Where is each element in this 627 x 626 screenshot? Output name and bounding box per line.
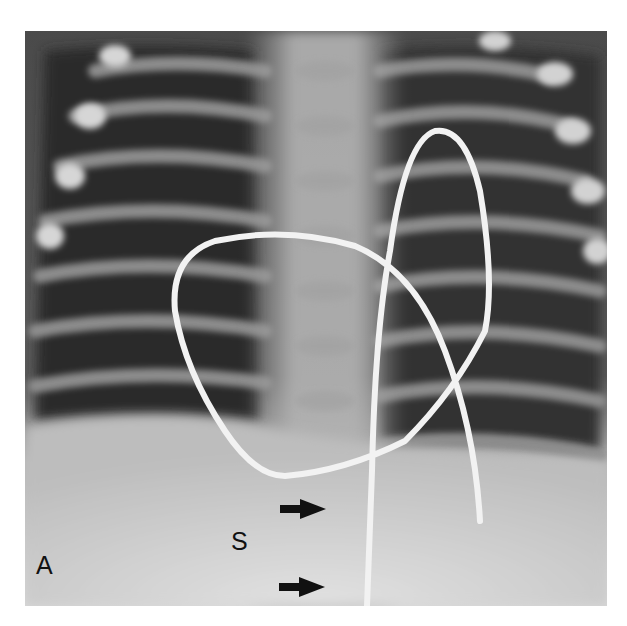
xray-figure: A S (25, 31, 607, 606)
chest-radiograph (25, 31, 607, 606)
s-label: S (231, 529, 248, 554)
panel-label: A (36, 553, 53, 578)
